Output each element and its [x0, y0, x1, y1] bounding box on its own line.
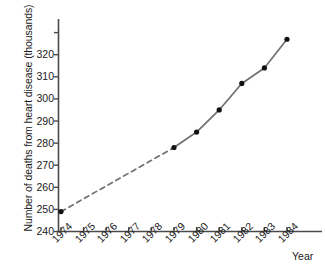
axes: [54, 19, 322, 232]
data-point-markers: [58, 37, 289, 215]
x-axis-title: Year: [292, 250, 313, 262]
line-chart: Number of deaths from heart disease (tho…: [0, 0, 325, 269]
data-series: [61, 39, 287, 211]
